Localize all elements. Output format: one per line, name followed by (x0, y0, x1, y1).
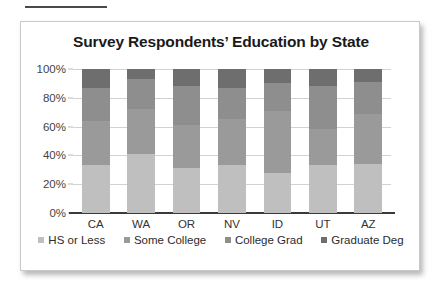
stacked-bar (218, 69, 246, 213)
bar-segment (354, 82, 382, 114)
y-tick-label: 0% (49, 207, 66, 219)
bar-column: ID (255, 69, 300, 213)
stacked-bar (309, 69, 337, 213)
legend-label: Some College (134, 234, 206, 246)
bar-column: AZ (346, 69, 391, 213)
y-tick-label: 40% (43, 149, 66, 161)
x-tick-label: AZ (346, 218, 391, 230)
legend-item[interactable]: HS or Less (38, 234, 105, 246)
legend-swatch-icon (124, 237, 130, 243)
bar-segment (264, 111, 292, 173)
legend-label: HS or Less (48, 234, 105, 246)
bar-series-group: CAWAORNVIDUTAZ (73, 69, 391, 213)
x-tick-label: UT (300, 218, 345, 230)
bar-segment (218, 69, 246, 88)
x-tick-label: OR (164, 218, 209, 230)
bar-segment (173, 168, 201, 213)
legend-item[interactable]: College Grad (225, 234, 303, 246)
bar-segment (264, 69, 292, 83)
legend-item[interactable]: Some College (124, 234, 206, 246)
bar-segment (264, 83, 292, 110)
bar-column: OR (164, 69, 209, 213)
legend-swatch-icon (321, 237, 327, 243)
bar-segment (354, 164, 382, 213)
bar-segment (173, 125, 201, 168)
bar-segment (354, 114, 382, 164)
legend-swatch-icon (225, 237, 231, 243)
stacked-bar (264, 69, 292, 213)
bar-column: NV (210, 69, 255, 213)
bar-segment (173, 69, 201, 86)
chart-title: Survey Respondents’ Education by State (21, 33, 421, 51)
bar-segment (82, 121, 110, 166)
x-tick-label: WA (119, 218, 164, 230)
bar-segment (127, 109, 155, 154)
y-tick-label: 100% (37, 63, 66, 75)
stacked-bar (127, 69, 155, 213)
bar-segment (309, 86, 337, 129)
top-rule (25, 6, 107, 8)
bar-segment (309, 129, 337, 165)
bar-segment (264, 173, 292, 213)
legend-label: College Grad (235, 234, 303, 246)
legend-label: Graduate Deg (331, 234, 403, 246)
bar-segment (173, 86, 201, 125)
y-tick-label: 20% (43, 178, 66, 190)
stacked-bar (354, 69, 382, 213)
bar-segment (127, 69, 155, 79)
stacked-bar (173, 69, 201, 213)
plot-area: 0%20%40%60%80%100% CAWAORNVIDUTAZ (73, 69, 391, 213)
legend-swatch-icon (38, 237, 44, 243)
chart-legend: HS or LessSome CollegeCollege GradGradua… (29, 234, 413, 246)
x-tick-label: NV (210, 218, 255, 230)
bar-segment (127, 154, 155, 213)
y-tick-label: 80% (43, 92, 66, 104)
bar-column: CA (73, 69, 118, 213)
bar-segment (82, 69, 110, 88)
bar-segment (309, 165, 337, 213)
bar-column: UT (300, 69, 345, 213)
bar-segment (82, 165, 110, 213)
bar-segment (218, 119, 246, 165)
bar-segment (218, 88, 246, 120)
y-tick-label: 60% (43, 121, 66, 133)
bar-segment (218, 165, 246, 213)
bar-column: WA (119, 69, 164, 213)
bar-segment (354, 69, 382, 82)
page-root: Survey Respondents’ Education by State 0… (0, 0, 441, 295)
chart-card: Survey Respondents’ Education by State 0… (20, 21, 420, 271)
x-tick-label: ID (255, 218, 300, 230)
bar-segment (82, 88, 110, 121)
bar-segment (127, 79, 155, 109)
stacked-bar (82, 69, 110, 213)
legend-item[interactable]: Graduate Deg (321, 234, 403, 246)
x-tick-label: CA (73, 218, 118, 230)
bar-segment (309, 69, 337, 86)
